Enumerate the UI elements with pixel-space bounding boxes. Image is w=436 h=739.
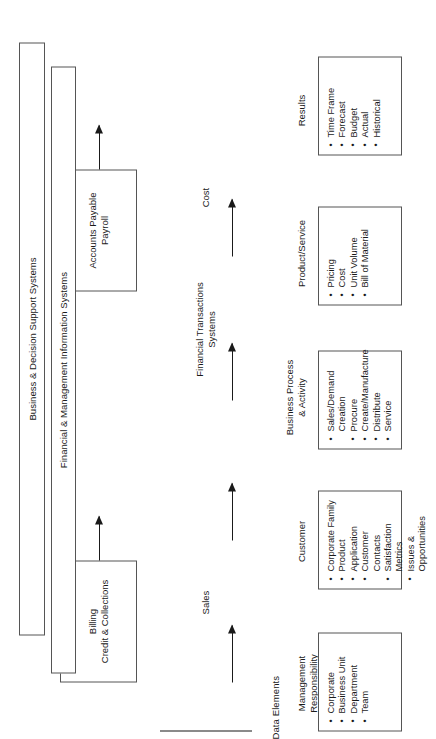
list-item: Issues & Opportunities <box>406 499 429 580</box>
list-item: Pricing <box>326 215 337 296</box>
flow-label-cost: Cost <box>200 152 212 242</box>
data-box-product-service: Pricing Cost Unit Volume Bill of Materia… <box>318 206 402 305</box>
arrow-billing-to-financial-mis <box>99 516 100 560</box>
list-item: Distribute <box>372 359 383 440</box>
section-heading-data-elements: Data Elements <box>270 675 281 739</box>
arrow-customer-to-sales <box>232 483 233 540</box>
list-item: Customer Contacts <box>360 499 383 580</box>
flow-label-financial-transactions-systems: Financial Transactions Systems <box>194 269 217 389</box>
list-item: Unit Volume <box>349 215 360 296</box>
list-item: Corporate <box>326 641 337 722</box>
list-item: Department <box>349 641 360 722</box>
column-header-management-responsibility: Management Responsibility <box>296 635 319 731</box>
list-item: Create/Manufacture <box>360 359 371 440</box>
data-box-results: Time Frame Forecast Budget Actual Histor… <box>318 56 402 155</box>
data-box-customer: Corporate Family Product Application Cus… <box>318 490 402 589</box>
data-box-list: Sales/Demand Creation Procure Create/Man… <box>326 359 394 440</box>
arrow-product-service-to-cost <box>232 199 233 256</box>
list-item: Forecast <box>337 65 348 146</box>
column-header-business-process-activity: Business Process & Activity <box>284 345 307 449</box>
arrow-management-responsibility-to-sales <box>232 625 233 682</box>
data-box-list: Corporate Business Unit Department Team <box>326 641 372 722</box>
list-item: Product <box>337 499 348 580</box>
list-item: Business Unit <box>337 641 348 722</box>
list-item: Team <box>360 641 371 722</box>
list-item: Cost <box>337 215 348 296</box>
column-header-product-service: Product/Service <box>296 201 308 305</box>
arrow-business-process-to-financial-transactions <box>232 343 233 400</box>
diagram-rotated-canvas: Data Elements Management Responsibility … <box>0 0 436 739</box>
flow-label-sales: Sales <box>200 557 212 647</box>
data-box-list: Time Frame Forecast Budget Actual Histor… <box>326 65 383 146</box>
column-header-results: Results <box>296 65 308 155</box>
diagram-canvas: Data Elements Management Responsibility … <box>0 0 436 739</box>
data-box-business-process-activity: Sales/Demand Creation Procure Create/Man… <box>318 350 402 449</box>
list-item: Satisfaction Metrics <box>383 499 406 580</box>
bar-financial-management-information-systems: Financial & Management Information Syste… <box>51 66 76 673</box>
bar-business-decision-support-systems: Business & Decision Support Systems <box>19 42 45 635</box>
column-header-customer: Customer <box>296 493 308 589</box>
list-item: Application <box>349 499 360 580</box>
data-box-list: Corporate Family Product Application Cus… <box>326 499 429 580</box>
list-item: Time Frame <box>326 65 337 146</box>
list-item: Historical <box>372 65 383 146</box>
list-item: Budget <box>349 65 360 146</box>
list-item: Sales/Demand Creation <box>326 359 349 440</box>
arrow-accounts-payable-to-financial-mis <box>99 125 100 169</box>
list-item: Service <box>383 359 394 440</box>
list-item: Corporate Family <box>326 499 337 580</box>
footer-rule <box>160 730 252 732</box>
data-box-management-responsibility: Corporate Business Unit Department Team <box>318 632 402 731</box>
list-item: Procure <box>349 359 360 440</box>
list-item: Bill of Material <box>360 215 371 296</box>
data-box-list: Pricing Cost Unit Volume Bill of Materia… <box>326 215 372 296</box>
list-item: Actual <box>360 65 371 146</box>
